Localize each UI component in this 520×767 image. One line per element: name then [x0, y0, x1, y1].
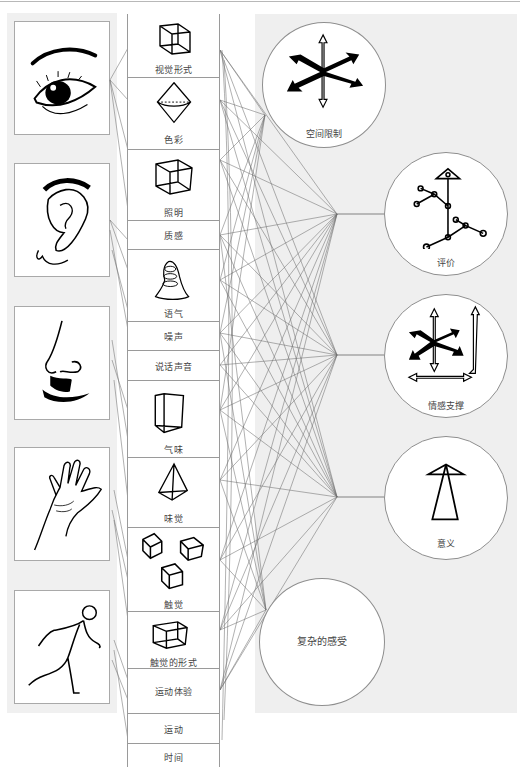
outcome-label: 情感支撑 — [385, 399, 507, 412]
sense-nose-mouth — [14, 306, 110, 420]
ear-icon — [15, 164, 109, 276]
attribute-label: 味觉 — [128, 512, 219, 525]
sense-body — [14, 590, 110, 704]
attribute-label: 时间 — [128, 751, 219, 764]
attribute-smell: 气味 — [128, 380, 219, 457]
attribute-label: 运动 — [128, 723, 219, 736]
outcome-label: 复杂的感受 — [260, 633, 384, 648]
cube-icon — [148, 156, 198, 200]
outcome-meaning: 意义 — [384, 436, 508, 560]
outcome-spatial-limit: 空间限制 — [262, 22, 386, 148]
attribute-movement-experience: 运动体验 — [128, 668, 219, 713]
top-rule — [0, 1, 520, 2]
attribute-time: 时间 — [128, 743, 219, 767]
attribute-label: 触觉 — [128, 598, 219, 611]
outcome-emotional-support: 情感支撑 — [384, 294, 508, 418]
attribute-label: 语气 — [128, 307, 219, 320]
attribute-noise: 噪声 — [128, 321, 219, 350]
attribute-movement: 运动 — [128, 713, 219, 743]
attribute-tactile-form: 触觉的形式 — [128, 611, 219, 668]
attribute-label: 质感 — [128, 229, 219, 242]
attribute-label: 噪声 — [128, 330, 219, 343]
outcome-evaluation: 评价 — [384, 152, 508, 276]
attribute-label: 气味 — [128, 443, 219, 456]
attribute-label: 视觉形式 — [128, 63, 219, 76]
attribute-tone: 语气 — [128, 249, 219, 321]
hand-icon — [15, 448, 109, 560]
three-cubes-icon — [130, 530, 218, 596]
attribute-label: 色彩 — [128, 133, 219, 146]
running-figure-icon — [15, 591, 109, 703]
node-tree-icon — [403, 161, 491, 249]
attribute-touch: 触觉 — [128, 527, 219, 611]
attribute-label: 照明 — [128, 206, 219, 219]
attribute-texture: 质感 — [128, 220, 219, 249]
attribute-label: 说话声音 — [128, 360, 219, 373]
attribute-visual-form: 视觉形式 — [128, 14, 219, 77]
sense-hand — [14, 447, 110, 561]
nose-mouth-icon — [15, 307, 109, 419]
attribute-color: 色彩 — [128, 77, 219, 149]
outcome-complex-feelings: 复杂的感受 — [259, 578, 385, 706]
cube-icon — [148, 620, 198, 652]
axes-arrows-icon — [281, 31, 369, 119]
attribute-lighting: 照明 — [128, 149, 219, 220]
prism-icon — [150, 389, 194, 439]
octahedron-icon — [150, 80, 198, 126]
attribute-speaking-voice: 说话声音 — [128, 350, 219, 380]
tetrahedron-icon — [155, 462, 193, 504]
outcome-label: 评价 — [385, 256, 507, 269]
sense-ear — [14, 163, 110, 277]
cube-icon — [148, 18, 198, 58]
arrow-up-icon — [403, 445, 491, 533]
outcome-label: 空间限制 — [263, 127, 385, 140]
bell-icon — [150, 258, 196, 304]
attribute-taste: 味觉 — [128, 457, 219, 527]
attribute-label: 运动体验 — [128, 685, 219, 698]
sense-eye — [14, 21, 110, 135]
axes-arrows-frame-icon — [401, 301, 493, 389]
eye-icon — [15, 22, 109, 134]
outcome-label: 意义 — [385, 537, 507, 550]
attribute-column: 视觉形式 色彩 照明 质感 语气 噪声 说话声音 气味 — [127, 14, 220, 767]
